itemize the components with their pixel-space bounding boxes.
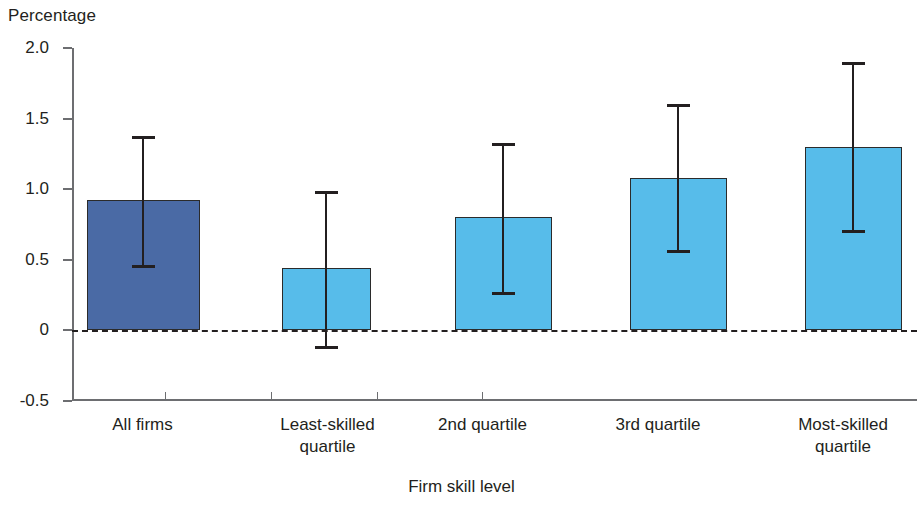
- y-tick-label-0: 0: [40, 320, 49, 340]
- y-tick-label-minus-0.5: -0.5: [20, 391, 49, 411]
- x-category-label-all-firms: All firms: [75, 414, 210, 436]
- x-category-label-line: 3rd quartile: [533, 414, 783, 436]
- error-cap-low-2nd-quartile: [492, 292, 515, 295]
- x-category-label-most-skilled-quartile: Most-skilled quartile: [768, 414, 918, 458]
- plot-area: 2.0 1.5 1.0 0.5 0 -0.5: [72, 48, 917, 401]
- error-cap-low-all-firms: [132, 265, 155, 268]
- error-bar-2nd-quartile: [502, 143, 504, 295]
- error-cap-high-3rd-quartile: [667, 104, 690, 107]
- error-bar-least-skilled-quartile: [325, 191, 327, 349]
- error-cap-high-least-skilled-quartile: [315, 191, 338, 194]
- error-bar-3rd-quartile: [677, 104, 679, 252]
- error-cap-low-least-skilled-quartile: [315, 346, 338, 349]
- y-tick-minus-0.5: -0.5: [63, 400, 72, 402]
- y-tick-label-1.5: 1.5: [25, 109, 49, 129]
- x-axis-separator-3: [377, 392, 378, 401]
- y-axis-line: [72, 48, 74, 401]
- x-category-label-line: All firms: [75, 414, 210, 436]
- y-tick-0.5: 0.5: [63, 259, 72, 261]
- y-tick-1.5: 1.5: [63, 118, 72, 120]
- x-category-label-3rd-quartile: 3rd quartile: [533, 414, 783, 436]
- error-cap-high-most-skilled-quartile: [842, 62, 865, 65]
- y-tick-label-0.5: 0.5: [25, 250, 49, 270]
- error-cap-high-all-firms: [132, 136, 155, 139]
- x-category-label-line: quartile: [768, 436, 918, 458]
- error-cap-low-3rd-quartile: [667, 250, 690, 253]
- y-axis-title: Percentage: [8, 6, 96, 26]
- zero-reference-line: [72, 330, 917, 332]
- x-category-label-line: Most-skilled: [768, 414, 918, 436]
- error-cap-low-most-skilled-quartile: [842, 230, 865, 233]
- y-tick-0: 0: [63, 329, 72, 331]
- y-tick-2.0: 2.0: [63, 47, 72, 49]
- error-bar-all-firms: [142, 136, 144, 269]
- y-tick-1.0: 1.0: [63, 188, 72, 190]
- y-tick-label-2.0: 2.0: [25, 38, 49, 58]
- x-axis-separator-1: [165, 392, 166, 401]
- error-cap-high-2nd-quartile: [492, 143, 515, 146]
- x-axis-separator-2: [271, 392, 272, 401]
- x-axis-separator-4: [482, 392, 483, 401]
- x-category-label-line: quartile: [240, 436, 415, 458]
- x-axis-title: Firm skill level: [0, 477, 923, 497]
- bar-chart-figure: Percentage 2.0 1.5 1.0 0.5 0 -0.5: [0, 0, 923, 506]
- x-axis-line: [72, 399, 917, 401]
- error-bar-most-skilled-quartile: [852, 62, 854, 233]
- y-tick-label-1.0: 1.0: [25, 179, 49, 199]
